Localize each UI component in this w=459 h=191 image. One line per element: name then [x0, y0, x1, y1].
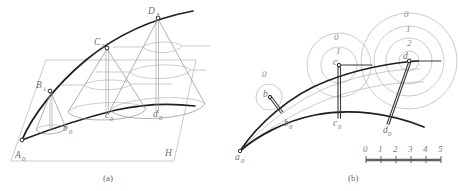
caption-panel-b: (b) — [348, 173, 359, 183]
label-C2: C — [94, 37, 101, 47]
node-A0 — [20, 138, 24, 142]
ring-label-c2-1: 1 — [336, 46, 341, 56]
label-a0-b: a — [235, 152, 240, 162]
ring-label-d3-1: 1 — [406, 24, 411, 34]
panel-a-group: A 0 B 1 C 2 D 3 b 0 c 0 d 0 H (a) — [11, 6, 210, 183]
panel-b-group: 0 0 1 0 1 2 a 0 b 1 b 0 c 2 c 0 d 3 — [235, 9, 457, 183]
label-A0: A — [14, 150, 21, 160]
ring-label-c2-0: 0 — [334, 32, 339, 42]
node-B1 — [48, 89, 52, 93]
figure-root: A 0 B 1 C 2 D 3 b 0 c 0 d 0 H (a) — [0, 0, 459, 191]
label-D3: D — [147, 6, 155, 16]
label-d0-a: d — [153, 109, 158, 119]
scale-tick-label-2: 2 — [393, 144, 398, 154]
scale-tick-label-5: 5 — [438, 144, 443, 154]
label-b0-a: b — [63, 123, 68, 133]
label-B1: B — [36, 80, 42, 90]
caption-panel-a: (a) — [103, 173, 113, 183]
label-D3-sub: 3 — [155, 11, 160, 18]
node-C2 — [105, 46, 109, 50]
label-b1-b-sub: 1 — [268, 94, 271, 101]
label-c0-b-sub: 0 — [338, 123, 342, 130]
scale-tick-label-1: 1 — [378, 144, 383, 154]
label-d3-b-sub: 3 — [407, 56, 412, 63]
scale-tick-label-0: 0 — [363, 144, 368, 154]
label-plane-h: H — [164, 148, 173, 158]
scale-tick-label-4: 4 — [423, 144, 428, 154]
ring-labels: 0 0 1 0 1 2 — [262, 9, 412, 79]
label-d0-b-sub: 0 — [388, 130, 392, 137]
label-B1-sub: 1 — [43, 85, 46, 92]
label-c0-a-sub: 0 — [110, 115, 114, 122]
guide-curve-2 — [241, 82, 424, 151]
scale-bar-group: 0 1 2 3 4 5 — [363, 144, 443, 163]
label-b0-a-sub: 0 — [69, 128, 73, 135]
label-a0-b-sub: 0 — [241, 157, 245, 164]
figure-canvas: A 0 B 1 C 2 D 3 b 0 c 0 d 0 H (a) — [0, 0, 459, 191]
ring-label-d3-2: 2 — [407, 38, 412, 48]
label-b0-b-sub: 0 — [289, 123, 293, 130]
scale-tick-label-3: 3 — [407, 144, 413, 154]
cone-d — [96, 19, 210, 119]
ring-label-b1-0: 0 — [262, 69, 267, 79]
label-d0-a-sub: 0 — [159, 114, 163, 121]
trajectory-upper-b — [240, 61, 418, 151]
cone-b — [36, 92, 66, 134]
ridge-curve-a — [22, 11, 193, 140]
ring-label-d3-0: 0 — [404, 9, 409, 19]
